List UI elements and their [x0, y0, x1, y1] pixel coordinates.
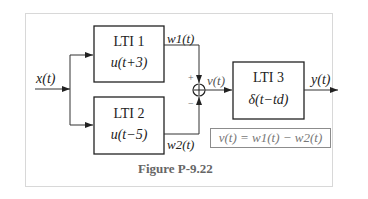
lti1-name: LTI 1: [94, 35, 164, 49]
lti1-impulse-response: u(t+3): [94, 56, 164, 70]
output-label: y(t): [311, 73, 330, 87]
minus-sign: −: [188, 99, 194, 109]
w2-label: w2(t): [167, 138, 194, 151]
lti2-name: LTI 2: [94, 107, 164, 121]
figure-caption: Figure P-9.22: [138, 161, 213, 177]
lti2-impulse-response: u(t−5): [94, 128, 164, 142]
lti3-name: LTI 3: [233, 71, 304, 85]
equation-box: v(t) = w1(t) − w2(t): [210, 128, 331, 148]
input-label: x(t): [36, 72, 55, 86]
v-label: v(t): [207, 74, 225, 87]
lti3-impulse-response: δ(t−td): [233, 93, 304, 107]
w1-label: w1(t): [167, 32, 194, 45]
plus-sign: +: [188, 73, 194, 83]
